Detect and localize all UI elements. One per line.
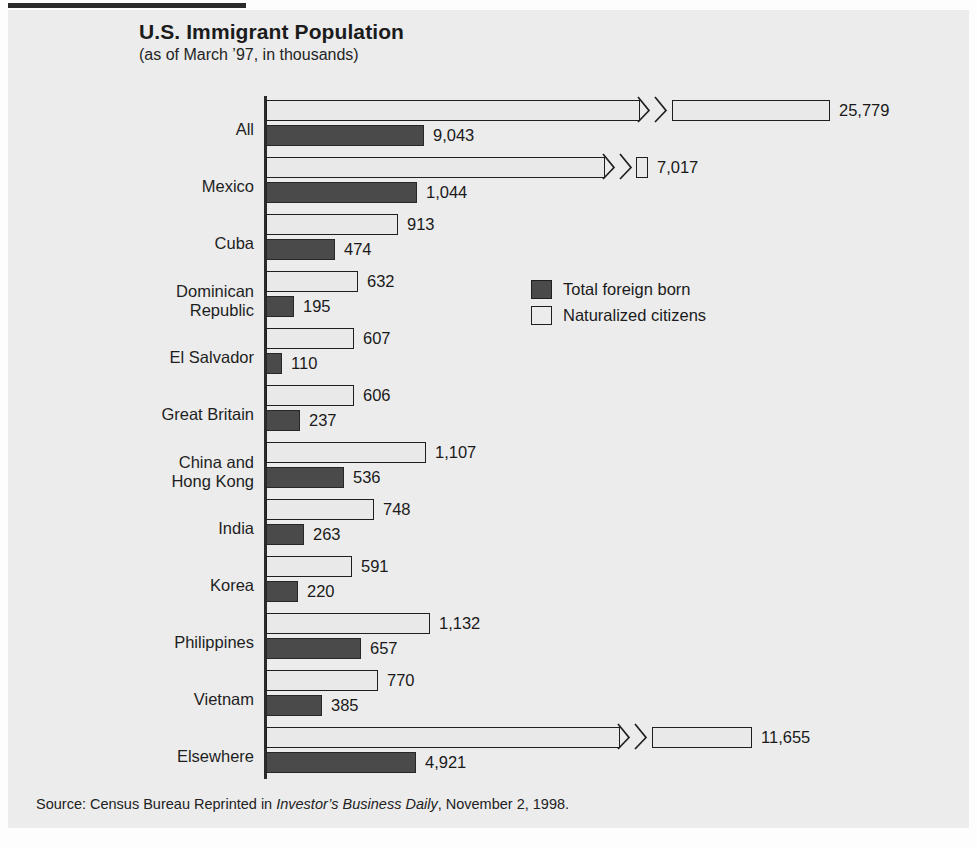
- bar-segment: [266, 581, 298, 602]
- bar-value-label: 25,779: [839, 101, 889, 120]
- bar-value-label: 1,044: [426, 183, 467, 202]
- source-prefix: Source: Census Bureau Reprinted in: [36, 796, 276, 812]
- legend-swatch-naturalized-citizens: [531, 306, 552, 325]
- bar-value-label: 7,017: [657, 158, 698, 177]
- bar-segment: [266, 524, 304, 545]
- bar-value-label: 474: [344, 240, 372, 259]
- bar-value-label: 1,132: [439, 614, 480, 633]
- bar-segment: [266, 182, 417, 203]
- legend-item: Total foreign born: [531, 276, 706, 302]
- bar-segment: [266, 385, 354, 406]
- bar-value-label: 770: [387, 671, 415, 690]
- bar-segment: [266, 100, 640, 121]
- bar-segment: [266, 695, 322, 716]
- bar-value-label: 385: [331, 696, 359, 715]
- category-label: Vietnam: [40, 690, 254, 709]
- category-label: India: [40, 519, 254, 538]
- bar-segment: [266, 467, 344, 488]
- bar-segment: [266, 271, 358, 292]
- source-publication: Investor’s Business Daily: [276, 796, 437, 812]
- bar-value-label: 606: [363, 386, 391, 405]
- legend-label: Total foreign born: [563, 280, 691, 299]
- bar-value-label: 195: [303, 297, 331, 316]
- category-label: Mexico: [40, 177, 254, 196]
- bar-segment: [266, 328, 354, 349]
- bar-value-label: 263: [313, 525, 341, 544]
- bar-value-label: 220: [307, 582, 335, 601]
- bar-segment: [266, 353, 282, 374]
- bar-segment: [266, 752, 416, 773]
- source-note: Source: Census Bureau Reprinted in Inves…: [36, 796, 569, 812]
- bar-segment: [266, 410, 300, 431]
- bar-value-label: 536: [353, 468, 381, 487]
- bar-segment: [266, 239, 335, 260]
- bar-segment: [672, 100, 830, 121]
- bar-segment: [266, 727, 620, 748]
- bar-segment: [266, 125, 424, 146]
- category-label: Cuba: [40, 234, 254, 253]
- bar-value-label: 748: [383, 500, 411, 519]
- legend-item: Naturalized citizens: [531, 302, 706, 328]
- bar-segment: [266, 296, 294, 317]
- bar-segment: [266, 638, 361, 659]
- legend-swatch-total-foreign-born: [531, 280, 552, 299]
- bar-segment: [266, 442, 426, 463]
- bar-value-label: 9,043: [433, 126, 474, 145]
- category-label: All: [40, 120, 254, 139]
- bar-segment: [266, 214, 398, 235]
- chart-legend: Total foreign born Naturalized citizens: [531, 276, 706, 328]
- bar-segment: [266, 499, 374, 520]
- category-label: Korea: [40, 576, 254, 595]
- axis-break-zigzag: [616, 722, 650, 753]
- legend-label: Naturalized citizens: [563, 306, 706, 325]
- bar-value-label: 632: [367, 272, 395, 291]
- bar-segment: [266, 613, 430, 634]
- bar-value-label: 110: [291, 354, 317, 373]
- source-suffix: , November 2, 1998.: [438, 796, 569, 812]
- bar-value-label: 237: [309, 411, 337, 430]
- bar-segment: [266, 556, 352, 577]
- bar-value-label: 11,655: [761, 728, 810, 747]
- bar-value-label: 607: [363, 329, 391, 348]
- category-label: El Salvador: [40, 348, 254, 367]
- axis-break-zigzag: [636, 95, 670, 126]
- chart-page: U.S. Immigrant Population (as of March ’…: [0, 0, 977, 849]
- category-label: China and Hong Kong: [40, 453, 254, 491]
- bar-value-label: 4,921: [425, 753, 466, 772]
- bar-chart-plot: All25,7799,043Mexico7,0171,044Cuba913474…: [0, 0, 977, 849]
- bar-value-label: 913: [407, 215, 435, 234]
- category-label: Dominican Republic: [40, 282, 254, 320]
- bar-segment: [636, 157, 648, 178]
- bar-value-label: 1,107: [435, 443, 476, 462]
- bar-value-label: 591: [361, 557, 389, 576]
- category-label: Great Britain: [40, 405, 254, 424]
- bar-segment: [266, 157, 605, 178]
- bar-segment: [266, 670, 378, 691]
- bar-segment: [652, 727, 752, 748]
- axis-break-zigzag: [601, 152, 635, 183]
- category-label: Philippines: [40, 633, 254, 652]
- bar-value-label: 657: [370, 639, 398, 658]
- category-label: Elsewhere: [40, 747, 254, 766]
